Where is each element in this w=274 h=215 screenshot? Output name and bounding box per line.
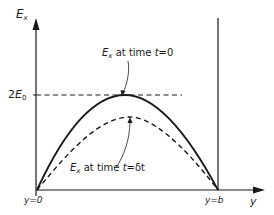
curve-solid-label-sub: x xyxy=(108,52,112,60)
y-axis-label-sub: x xyxy=(24,14,28,22)
level-label-sub: 0 xyxy=(22,94,26,102)
boundary-left-label: y=0 xyxy=(24,196,43,205)
curve-solid-label: Ex at time t=0 xyxy=(102,48,173,58)
curve-dashed-tdt xyxy=(37,117,218,190)
curve-dashed-label-text: at time xyxy=(80,162,122,173)
y-axis-label: Ex xyxy=(16,8,28,20)
curve-solid-label-text: at time xyxy=(112,47,154,58)
curve-dashed-label: Ex at time t=δt xyxy=(70,163,145,173)
diagram-canvas xyxy=(0,0,274,215)
y-axis-arrow-icon xyxy=(33,18,40,30)
y-axis-label-main: E xyxy=(16,7,24,21)
boundary-right-label: y=b xyxy=(205,196,224,205)
level-2e0-label: 2E0 xyxy=(8,89,26,100)
annotation-arrowhead-dashed-icon xyxy=(128,117,133,123)
x-axis-label: y xyxy=(250,196,257,207)
level-label-prefix: 2 xyxy=(8,88,15,101)
curve-dashed-label-sub: x xyxy=(76,167,80,175)
annotation-arrow-dashed xyxy=(116,120,130,168)
level-label-main: E xyxy=(15,88,22,101)
curve-solid-label-eq: =0 xyxy=(159,47,174,58)
curve-dashed-label-eq: =δt xyxy=(127,162,145,173)
x-axis-arrow-icon xyxy=(253,187,265,194)
annotation-arrow-solid xyxy=(123,61,129,93)
